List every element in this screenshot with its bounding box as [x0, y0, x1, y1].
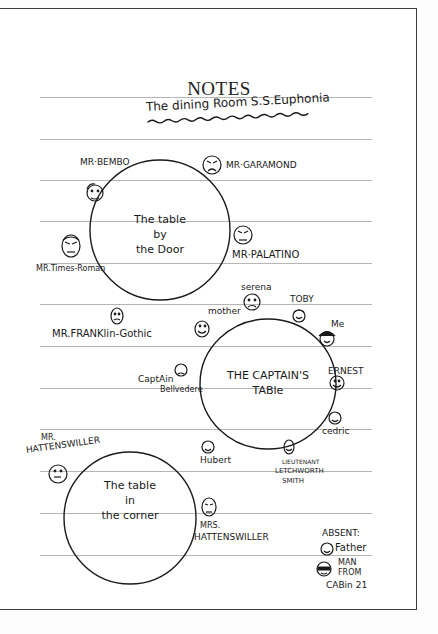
guest-label-ernest: ERNEST [328, 366, 364, 376]
face-hubert-icon [202, 441, 214, 453]
guest-label-toby: TOBY [290, 294, 314, 304]
guest-label-mrs-hattenswiller-2: HATTENSWILLER [194, 532, 269, 542]
face-times-roman-icon [62, 235, 80, 257]
table-label-line: by [120, 227, 200, 242]
guest-label-garamond: MR·GARAMOND [226, 160, 297, 170]
absent-item-man-line-2: FROM [338, 568, 361, 577]
guest-label-hubert: Hubert [200, 455, 231, 465]
guest-label-lieutenant-3: SMITH [282, 477, 304, 485]
guest-label-bembo: MR·BEMBO [80, 157, 130, 167]
guest-label-franklin-gothic: MR.FRANKlin-Gothic [52, 328, 152, 339]
face-captain-bellvedere-icon [175, 364, 187, 376]
absent-item-father: Father [335, 542, 366, 553]
guest-label-me: Me [331, 319, 344, 329]
guest-label-captain-1: CaptAin [138, 374, 173, 384]
guest-label-mother: mother [208, 306, 241, 316]
face-mrs-hattenswiller-icon [202, 498, 216, 516]
face-me-icon [319, 332, 335, 347]
guest-label-times-roman: MR.Times-Roman [36, 264, 105, 273]
face-toby-icon [293, 310, 305, 322]
face-man-from-cabin-21-icon [317, 562, 331, 576]
table-label-line: in [90, 493, 170, 508]
guest-label-cedric: cedric [322, 426, 349, 436]
table-label-by-the-door: The table by the Door [120, 212, 200, 257]
guest-label-lieutenant-1: LIEUTENANT [282, 458, 320, 465]
table-label-in-the-corner: The table in the corner [90, 478, 170, 523]
guest-label-lieutenant-2: LETCHWORTH [275, 467, 324, 475]
face-franklin-gothic-icon [111, 308, 123, 324]
face-father-icon [321, 543, 333, 555]
guest-label-captain-2: Bellvedere [160, 385, 203, 394]
table-label-line: The table [90, 478, 170, 493]
table-label-line: the corner [90, 508, 170, 523]
face-mother-icon [195, 321, 209, 337]
face-cedric-icon [329, 412, 341, 424]
face-serena-icon [244, 294, 260, 310]
wavy-underline [148, 112, 308, 123]
face-mr-hattenswiller-icon [49, 465, 67, 483]
face-ernest-icon [330, 376, 344, 390]
absent-heading: ABSENT: [322, 528, 360, 538]
guest-label-palatino: MR·PALATINO [232, 249, 299, 260]
guest-label-mrs-hattenswiller-1: MRS. [200, 521, 220, 530]
face-palatino-icon [234, 226, 252, 244]
absent-item-man-line-1: MAN [338, 558, 356, 567]
table-label-line: The table [120, 212, 200, 227]
table-label-line: THE CAPTAIN'S [213, 368, 323, 383]
absent-item-man-line-3: CABin 21 [326, 580, 367, 590]
face-garamond-icon [203, 156, 221, 174]
table-label-line: TABle [213, 383, 323, 398]
guest-label-serena: serena [241, 282, 272, 292]
table-label-line: the Door [120, 242, 200, 257]
table-label-captains: THE CAPTAIN'S TABle [213, 368, 323, 398]
